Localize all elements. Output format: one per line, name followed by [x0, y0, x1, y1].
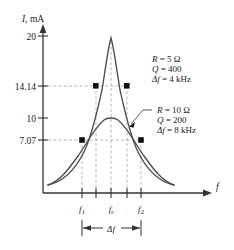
annotation-b-line-df: Δf = 8 kHz — [156, 125, 196, 135]
x-axis-arrowhead — [203, 190, 212, 197]
x-tick-fr-sub: r — [111, 208, 114, 215]
y-tick-label-20: 20 — [27, 32, 37, 42]
resonance-curve-figure: I, mA f 20 14.14 10 7.07 f1 fr f2 R = 5 … — [0, 0, 234, 250]
annotation-b-df-value: = 8 kHz — [165, 125, 196, 135]
annotation-b-line-q: Q = 200 — [157, 115, 187, 125]
x-tick-label-fr: fr — [109, 204, 115, 215]
annotation-wide-curve: R = 10 Ω Q = 200 Δf = 8 kHz — [156, 105, 196, 135]
plot-canvas: I, mA f 20 14.14 10 7.07 f1 fr f2 R = 5 … — [0, 0, 234, 250]
y-tick-label-10: 10 — [27, 114, 37, 124]
marker-wide-f1 — [79, 137, 85, 143]
y-tick-label-707: 7.07 — [19, 136, 36, 146]
y-axis-arrowhead — [40, 24, 47, 33]
annotation-b-r-value: = 10 Ω — [163, 105, 191, 115]
x-tick-label-f1: f1 — [79, 204, 85, 215]
bracket-arrowhead-left — [83, 225, 91, 231]
annotation-a-line-q: Q = 400 — [152, 64, 182, 74]
y-tick-label-1414: 14.14 — [15, 82, 37, 92]
x-tick-f2-sub: 2 — [141, 208, 144, 215]
annotation-a-line-df: Δf = 4 kHz — [151, 74, 191, 84]
annotation-a-r-value: = 5 Ω — [158, 54, 181, 64]
y-axis-title: I, mA — [21, 14, 44, 24]
x-tick-f1-sub: 1 — [82, 208, 85, 215]
annotation-b-q-value: = 200 — [164, 115, 188, 125]
marker-wide-f2 — [138, 137, 144, 143]
annotation-a-q-value: = 400 — [159, 64, 183, 74]
bandwidth-bracket-label: Δf — [106, 224, 116, 234]
marker-narrow-upper — [124, 83, 130, 89]
bracket-arrowhead-right — [132, 225, 140, 231]
annotation-b-leader — [131, 110, 152, 124]
leader-line-path — [131, 110, 152, 124]
annotation-a-line-r: R = 5 Ω — [151, 54, 181, 64]
y-axis-unit: , mA — [25, 14, 44, 24]
x-tick-label-f2: f2 — [138, 204, 144, 215]
half-power-markers — [79, 83, 144, 143]
x-axis-title: f — [216, 182, 220, 192]
annotation-narrow-curve: R = 5 Ω Q = 400 Δf = 4 kHz — [151, 54, 191, 84]
annotation-a-df-value: = 4 kHz — [160, 74, 191, 84]
annotation-b-line-r: R = 10 Ω — [156, 105, 190, 115]
marker-narrow-lower — [93, 83, 99, 89]
